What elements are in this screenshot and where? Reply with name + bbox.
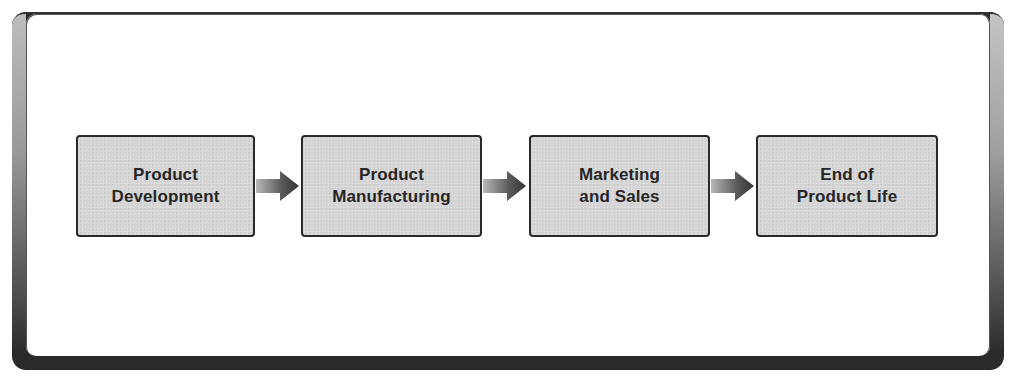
frame-border-right	[990, 14, 1004, 354]
frame-border-left	[12, 14, 26, 354]
stage-label: End of Product Life	[797, 164, 897, 208]
stage-marketing-and-sales: Marketing and Sales	[529, 135, 710, 237]
stage-product-development: Product Development	[76, 135, 255, 237]
stage-end-of-product-life: End of Product Life	[756, 135, 938, 237]
stage-product-manufacturing: Product Manufacturing	[301, 135, 482, 237]
stage-label: Product Development	[112, 164, 220, 208]
stage-label: Product Manufacturing	[332, 164, 450, 208]
frame-border-top	[24, 12, 992, 14]
arrow-right-icon	[483, 171, 527, 201]
stage-label: Marketing and Sales	[579, 164, 660, 208]
arrow-right-icon	[711, 171, 755, 201]
arrow-right-icon	[256, 171, 300, 201]
